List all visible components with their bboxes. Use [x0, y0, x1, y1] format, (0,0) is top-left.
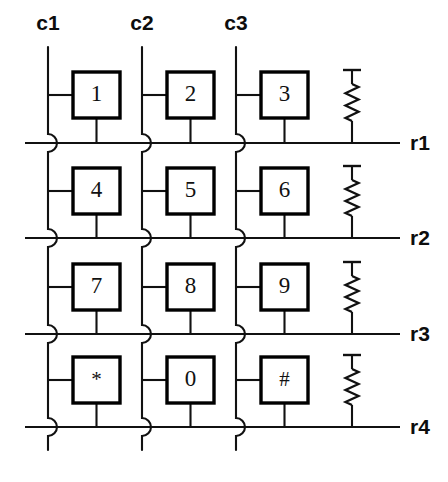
column-label-c2: c2	[130, 11, 153, 34]
column-label-c3: c3	[224, 11, 247, 34]
key-label: 2	[185, 81, 197, 106]
row-label-r1: r1	[410, 131, 430, 154]
row-label-r2: r2	[410, 226, 430, 249]
key-label: 8	[185, 273, 197, 298]
key-label: 9	[279, 273, 291, 298]
key-label: *	[91, 367, 102, 391]
key-label: 0	[185, 366, 197, 391]
column-label-c1: c1	[36, 11, 60, 34]
row-label-r3: r3	[410, 322, 430, 345]
keypad-matrix-schematic: 123456789*0# c1c2c3r1r2r3r4	[0, 0, 448, 482]
key-label: 6	[279, 177, 291, 202]
canvas-background	[0, 0, 448, 482]
key-label: #	[279, 367, 290, 391]
key-label: 4	[91, 177, 103, 202]
key-label: 1	[91, 81, 103, 106]
row-label-r4: r4	[410, 415, 430, 438]
key-label: 3	[279, 81, 291, 106]
key-label: 5	[185, 177, 197, 202]
key-label: 7	[91, 273, 103, 298]
